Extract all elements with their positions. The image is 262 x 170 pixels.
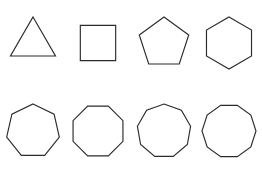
polygon-cell-triangle: [3, 10, 63, 76]
nonagon-outline: [137, 104, 190, 156]
polygon-row-bottom: [0, 94, 262, 168]
triangle-outline: [10, 17, 55, 56]
polygon-cell-square: [68, 10, 128, 76]
triangle-svg: [4, 14, 62, 72]
heptagon-outline: [6, 104, 59, 155]
polygon-cell-decagon: [199, 98, 259, 164]
polygon-figure: [0, 0, 262, 170]
polygon-cell-hexagon: [199, 10, 259, 76]
square-outline: [81, 25, 116, 60]
hexagon-svg: [200, 14, 258, 72]
square-svg: [70, 15, 126, 71]
polygon-cell-heptagon: [3, 98, 63, 164]
polygon-cell-octagon: [68, 98, 128, 164]
polygon-row-top: [0, 6, 262, 80]
octagon-svg: [68, 101, 128, 161]
polygon-cell-pentagon: [134, 10, 194, 76]
octagon-outline: [73, 106, 123, 156]
decagon-outline: [202, 105, 256, 156]
pentagon-outline: [139, 17, 188, 64]
decagon-svg: [199, 101, 259, 161]
polygon-cell-nonagon: [134, 98, 194, 164]
hexagon-outline: [207, 17, 252, 69]
pentagon-svg: [135, 14, 193, 72]
heptagon-svg: [3, 101, 63, 161]
nonagon-svg: [134, 101, 194, 161]
